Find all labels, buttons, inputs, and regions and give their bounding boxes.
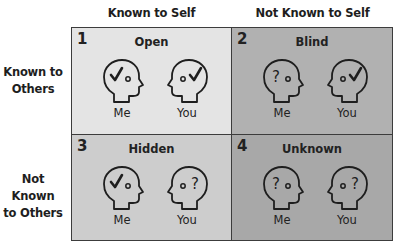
quadrant-open: 1OpenMeYou [72,28,232,135]
row-header-not-known-to-others: Not Known to Others [0,171,66,222]
person-me: ?Me [260,58,304,120]
person-label-me: Me [100,106,144,120]
person-you: You [325,58,369,120]
head-check-icon [165,58,209,104]
head-check-icon [100,165,144,211]
head-question-icon: ? [260,165,304,211]
quadrant-unknown: 4Unknown?Me?You [232,135,392,240]
quadrant-title: Blind [232,35,392,49]
row-header-known-to-others: Known to Others [0,64,66,98]
svg-text:?: ? [351,175,359,193]
column-header-not-known-to-self: Not Known to Self [232,6,393,20]
person-label-me: Me [260,213,304,227]
head-check-icon [325,58,369,104]
row-header-line: Known to [3,65,63,79]
quadrant-blind: 2Blind?MeYou [232,28,392,135]
person-label-you: You [325,106,369,120]
person-label-you: You [325,213,369,227]
person-label-you: You [165,106,209,120]
quadrant-title: Unknown [232,142,392,156]
quadrant-hidden: 3HiddenMe?You [72,135,232,240]
head-question-icon: ? [165,165,209,211]
svg-text:?: ? [272,175,280,193]
svg-text:?: ? [272,68,280,86]
svg-text:?: ? [191,175,199,193]
person-me: Me [100,58,144,120]
row-header-line: Not Known [12,172,55,203]
person-me: ?Me [260,165,304,227]
person-you: You [165,58,209,120]
johari-grid: 1OpenMeYou 2Blind?MeYou 3HiddenMe?You 4U… [71,27,393,241]
quadrant-title: Hidden [72,142,231,156]
head-check-icon [100,58,144,104]
column-header-known-to-self: Known to Self [71,6,232,20]
quadrant-title: Open [72,35,231,49]
person-label-me: Me [100,213,144,227]
head-question-icon: ? [260,58,304,104]
row-header-line: Others [12,82,55,96]
person-you: ?You [165,165,209,227]
head-question-icon: ? [325,165,369,211]
person-label-you: You [165,213,209,227]
row-header-line: to Others [3,206,62,220]
person-me: Me [100,165,144,227]
person-you: ?You [325,165,369,227]
person-label-me: Me [260,106,304,120]
